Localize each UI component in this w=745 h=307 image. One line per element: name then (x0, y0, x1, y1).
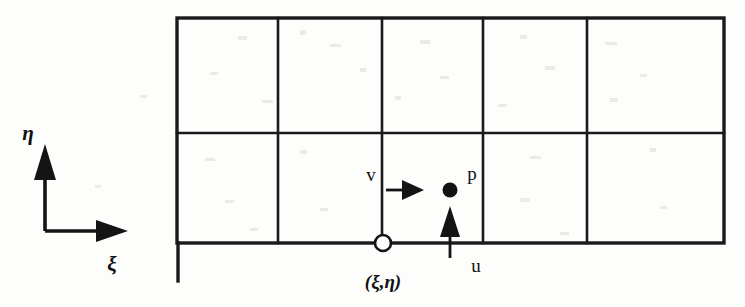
v-arrow-head (402, 180, 424, 200)
u-velocity-label: u (471, 255, 481, 276)
u-velocity-arrow (440, 206, 460, 258)
corner-node-open-circle (375, 235, 391, 251)
figure-canvas: η ξ v p u (ξ,η) (0, 0, 745, 307)
eta-axis-label: η (22, 121, 34, 145)
xi-axis-label: ξ (107, 252, 117, 276)
pressure-label: p (467, 163, 477, 184)
pressure-node-filled-circle (443, 183, 458, 198)
axes-group (34, 144, 128, 242)
eta-axis-arrowhead (34, 144, 56, 180)
corner-coordinate-label: (ξ,η) (365, 271, 401, 293)
staggered-grid-diagram: η ξ v p u (ξ,η) (0, 0, 745, 307)
u-arrow-head (440, 206, 460, 237)
xi-axis-arrowhead (96, 220, 128, 242)
v-velocity-arrow (386, 180, 424, 200)
v-velocity-label: v (366, 164, 376, 185)
